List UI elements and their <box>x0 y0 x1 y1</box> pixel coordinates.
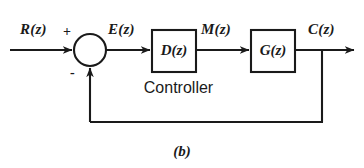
summing-plus-sign: + <box>63 25 71 39</box>
summing-junction-circle <box>74 34 106 66</box>
error-signal-label: E(z) <box>108 22 135 37</box>
manipulated-signal-label: M(z) <box>201 22 231 37</box>
controller-block-label: D(z) <box>152 43 196 58</box>
figure-caption: (b) <box>0 144 364 159</box>
plant-block-label: G(z) <box>251 43 295 58</box>
output-signal-label: C(z) <box>308 22 335 37</box>
block-diagram-figure: R(z) + - E(z) D(z) M(z) G(z) C(z) Contro… <box>0 0 364 168</box>
summing-minus-sign: - <box>70 66 75 80</box>
input-signal-label: R(z) <box>20 22 47 37</box>
controller-annotation-label: Controller <box>131 80 226 96</box>
